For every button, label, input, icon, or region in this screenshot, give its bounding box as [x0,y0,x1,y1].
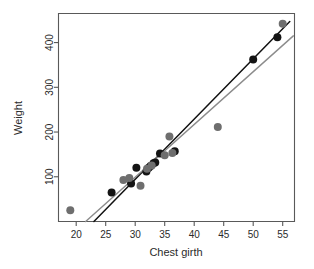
data-point [66,206,74,214]
data-point [137,182,145,190]
data-point [161,151,169,159]
x-tick-label: 40 [189,229,201,240]
data-point [168,149,176,157]
scatter-plot-figure: 2025303540455055 100200300400 Chest girt… [0,0,314,269]
data-point [214,123,222,131]
x-tick-label: 35 [159,229,171,240]
data-point [165,133,173,141]
x-tick-label: 55 [277,229,289,240]
y-tick-label: 100 [44,168,55,185]
data-point [108,188,116,196]
x-tick-label: 45 [218,229,230,240]
data-point [279,20,287,28]
x-tick-label: 50 [248,229,260,240]
data-point [249,56,257,64]
chart-canvas: 2025303540455055 100200300400 Chest girt… [0,0,314,269]
data-point [273,33,281,41]
data-point [148,162,156,170]
x-tick-label: 25 [100,229,112,240]
y-tick-label: 400 [44,34,55,51]
y-tick-label: 300 [44,79,55,96]
data-point [132,164,140,172]
x-axis-title: Chest girth [149,246,202,258]
x-tick-label: 20 [71,229,83,240]
data-point [125,174,133,182]
x-tick-label: 30 [130,229,142,240]
y-tick-label: 200 [44,123,55,140]
y-axis-title: Weight [12,101,24,135]
